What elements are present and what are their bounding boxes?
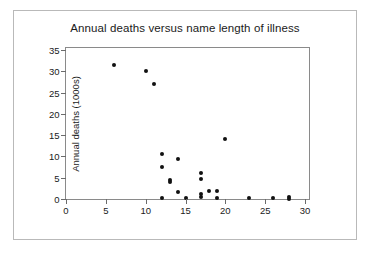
y-axis-tick — [61, 114, 66, 115]
y-axis-tick — [61, 135, 66, 136]
y-axis-tick — [61, 178, 66, 179]
x-axis-tick — [106, 199, 107, 204]
x-axis-tick-label: 15 — [180, 205, 191, 216]
x-axis-tick — [66, 199, 67, 204]
x-axis-tick-label: 5 — [103, 205, 108, 216]
y-axis-tick — [61, 71, 66, 72]
x-axis-tick — [186, 199, 187, 204]
data-point — [271, 196, 275, 200]
data-point — [160, 196, 164, 200]
y-axis-tick-label: 30 — [49, 66, 60, 77]
y-axis-tick-label: 35 — [49, 45, 60, 56]
y-axis-tick-label: 0 — [54, 194, 59, 205]
plot-area: Annual deaths (1000s) Name length 051015… — [65, 47, 310, 200]
x-axis-tick-label: 25 — [260, 205, 271, 216]
x-axis-tick — [305, 199, 306, 204]
data-point — [207, 189, 211, 193]
figure-root: Annual deaths versus name length of illn… — [0, 0, 371, 256]
data-point — [144, 69, 148, 73]
x-axis-tick — [146, 199, 147, 204]
y-axis-tick-label: 25 — [49, 87, 60, 98]
data-point — [160, 165, 164, 169]
data-point — [199, 171, 203, 175]
scatter-points-layer — [66, 48, 309, 199]
x-axis-tick-label: 20 — [220, 205, 231, 216]
data-point — [223, 137, 227, 141]
data-point — [247, 196, 251, 200]
data-point — [168, 180, 172, 184]
data-point — [215, 189, 219, 193]
data-point — [176, 190, 180, 194]
y-axis-tick-label: 15 — [49, 130, 60, 141]
data-point — [160, 152, 164, 156]
y-axis-tick — [61, 93, 66, 94]
data-point — [199, 195, 203, 199]
y-axis-tick — [61, 50, 66, 51]
x-axis-tick-label: 0 — [63, 205, 68, 216]
data-point — [199, 177, 203, 181]
chart-title: Annual deaths versus name length of illn… — [13, 22, 357, 34]
y-axis-label: Annual deaths (1000s) — [70, 76, 81, 172]
data-point — [152, 82, 156, 86]
x-axis-tick — [225, 199, 226, 204]
x-axis-tick — [265, 199, 266, 204]
y-axis-tick-label: 10 — [49, 151, 60, 162]
x-axis-tick-label: 30 — [300, 205, 311, 216]
y-axis-tick — [61, 156, 66, 157]
data-point — [112, 63, 116, 67]
data-point — [287, 197, 291, 201]
y-axis-tick-label: 5 — [54, 172, 59, 183]
y-axis-tick-label: 20 — [49, 108, 60, 119]
data-point — [176, 157, 180, 161]
data-point — [215, 196, 219, 200]
x-axis-tick-label: 10 — [140, 205, 151, 216]
